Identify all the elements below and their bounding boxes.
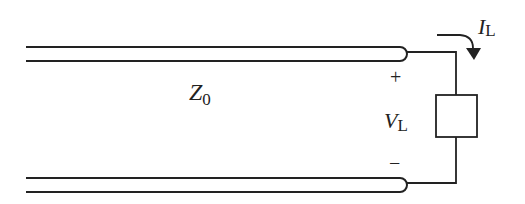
load-impedance-box	[436, 95, 477, 137]
minus-sign: −	[389, 152, 400, 174]
plus-sign: +	[390, 66, 401, 88]
current-label: IL	[477, 14, 496, 40]
current-arrow	[437, 35, 473, 48]
top-wire	[407, 52, 456, 95]
voltage-label: VL	[384, 108, 408, 135]
impedance-label: Z0	[189, 79, 211, 109]
bottom-wire	[407, 137, 456, 183]
current-arrow-head	[466, 48, 481, 60]
top-conductor	[26, 47, 407, 61]
transmission-line-diagram: Z0 IL VL + −	[0, 0, 525, 204]
bottom-conductor	[26, 178, 407, 192]
